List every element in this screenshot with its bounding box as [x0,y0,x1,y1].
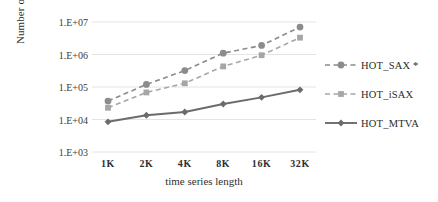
x-tick-label-2K: 2K [139,158,153,169]
legend-item-hot-isax[interactable]: HOT_iSAX [324,85,413,103]
x-tick-label-8K: 8K [216,158,230,169]
plot-area [92,14,316,156]
data-point-4K [181,109,188,116]
data-point-2K [144,90,150,96]
y-tick-label: 1.E+03 [40,147,88,158]
data-point-16K [259,52,265,58]
legend-marker-diamond-icon [324,116,358,130]
data-point-4K [182,80,188,86]
y-tick-label: 1.E+07 [40,17,88,28]
chart-figure: Number of computed distances (log scale)… [0,0,438,202]
chart-legend: HOT_SAX *HOT_iSAXHOT_MTVA [324,56,438,148]
series-line [108,27,300,101]
y-tick-label: 1.E+05 [40,82,88,93]
y-tick-label: 1.E+04 [40,114,88,125]
data-point-2K [143,81,150,88]
x-tick-label-16K: 16K [252,158,272,169]
data-point-2K [143,112,150,119]
legend-label: HOT_MTVA [361,118,419,129]
x-tick-label-1K: 1K [101,158,115,169]
gridlines [92,22,316,152]
legend-marker-square-icon [324,87,358,101]
series-hot-isax [105,35,303,111]
data-point-8K [220,64,226,70]
x-axis-title: time series length [92,175,316,187]
plot-svg [92,14,316,156]
data-point-8K [220,50,227,57]
series-line [108,90,300,122]
legend-item-hot-mtva[interactable]: HOT_MTVA [324,114,419,132]
data-point-1K [105,105,111,111]
legend-label: HOT_SAX * [361,60,419,71]
x-tick-label-4K: 4K [178,158,192,169]
legend-marker-circle-icon [324,58,358,72]
series-layer [105,24,304,126]
y-axis-tick-labels: 1.E+031.E+041.E+051.E+061.E+07 [36,0,88,202]
data-point-8K [220,101,227,108]
legend-label: HOT_iSAX [361,89,413,100]
x-tick-label-32K: 32K [290,158,310,169]
legend-item-hot-sax[interactable]: HOT_SAX * [324,56,419,74]
y-tick-label: 1.E+06 [40,49,88,60]
x-axis-tick-labels: 1K2K4K8K16K32K [92,158,316,174]
data-point-16K [258,42,265,49]
data-point-1K [105,98,112,105]
y-axis-title: Number of computed distances (log scale) [2,0,38,36]
data-point-16K [258,94,265,101]
data-point-32K [297,35,303,41]
data-point-32K [297,24,304,31]
y-axis-title-line1: Number of computed distances [14,0,26,44]
series-hot-sax [105,24,304,105]
data-point-4K [181,67,188,74]
series-line [108,38,300,108]
